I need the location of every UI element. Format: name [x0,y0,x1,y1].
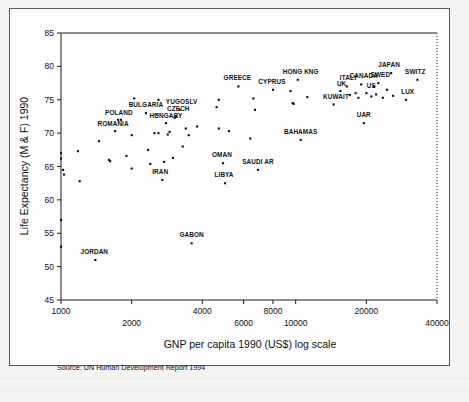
point-label: CYPRUS [258,78,286,85]
x-tick-label: 6000 [234,318,253,328]
data-point [60,152,62,154]
data-point [405,99,407,101]
point-label: JORDAN [81,248,109,255]
data-point [339,90,341,92]
point-label: LIBYA [215,171,234,178]
data-point [63,174,65,176]
data-point [182,145,184,147]
data-point [163,161,165,163]
point-label: UAR [357,111,371,118]
y-tick-label: 70 [45,128,55,138]
point-label: KUWAIT [323,93,349,100]
point-label: ROMANIA [97,120,129,127]
data-point [249,137,251,139]
data-point [377,82,379,84]
y-axis-title: Life Expectancy (M & F) 1990 [18,97,30,235]
data-point [196,125,198,127]
y-tick-label: 45 [45,295,55,305]
data-point [355,92,357,94]
data-point [289,90,291,92]
data-point [60,219,62,221]
data-point [357,97,359,99]
point-label: BULGARIA [129,101,164,108]
data-point [363,122,365,124]
data-point [191,242,193,244]
data-point [172,157,174,159]
y-tick-label: 50 [45,262,55,272]
y-tick-label: 85 [45,28,55,38]
point-label: SAUDI AR [242,158,274,165]
point-label: YUGOSLV [166,98,198,105]
data-point [161,179,163,181]
data-point [188,134,190,136]
data-point [131,134,133,136]
data-point [349,94,351,96]
x-tick-label: 1000 [52,306,71,316]
data-point [98,140,100,142]
data-point [169,131,171,133]
data-point [218,99,220,101]
source-note: Source: UN Human Development Report 1994 [57,363,205,372]
data-point [185,127,187,129]
data-point [365,92,367,94]
data-point [60,246,62,248]
data-point [133,97,135,99]
x-tick-label: 40000 [425,318,449,328]
data-point [392,95,394,97]
data-point [94,259,96,261]
point-label: BAHAMAS [284,128,318,135]
data-point [131,168,133,170]
x-tick-label: 10000 [284,318,308,328]
point-label: LUX [401,88,415,95]
data-point [145,112,147,114]
data-point [165,122,167,124]
data-point [416,79,418,81]
y-tick-label: 75 [45,95,55,105]
point-label: US [367,82,377,89]
data-point [254,109,256,111]
chart-point-labels: JORDANGABONROMANIAPOLANDBULGARIAHUNGARYC… [81,61,426,255]
data-point [109,160,111,162]
data-point [125,155,127,157]
y-tick-label: 65 [45,162,55,172]
chart-data-points [60,72,418,261]
data-point [216,106,218,108]
data-point [257,169,259,171]
data-point [375,93,377,95]
data-point [297,79,299,81]
data-point [300,139,302,141]
data-point [228,130,230,132]
point-label: GABON [179,231,204,238]
y-tick-label: 60 [45,195,55,205]
data-point [147,149,149,151]
point-label: IRAN [152,168,168,175]
data-point [157,132,159,134]
data-point [293,103,295,105]
x-tick-label: 4000 [193,306,212,316]
data-point [77,150,79,152]
point-label: POLAND [105,109,133,116]
data-point [114,130,116,132]
data-point [149,163,151,165]
y-tick-label: 55 [45,228,55,238]
data-point [390,72,392,74]
data-point [252,97,254,99]
data-point [382,97,384,99]
data-point [306,96,308,98]
data-point [360,83,362,85]
data-point [370,95,372,97]
point-label: CZECH [167,105,190,112]
x-tick-label: 2000 [122,318,141,328]
point-label: GREECE [224,74,252,81]
chart-svg: 4550556065707580851000200040006000800010… [0,0,469,402]
data-point [386,89,388,91]
data-point [333,103,335,105]
data-point [60,157,62,159]
x-tick-label: 8000 [263,306,282,316]
data-point [222,162,224,164]
point-label: JAPAN [378,61,400,68]
data-point [237,85,239,87]
x-axis-title: GNP per capita 1990 (US$) log scale [164,338,337,350]
point-label: HUNGARY [150,112,183,119]
scatter-chart-figure: 4550556065707580851000200040006000800010… [0,0,469,402]
